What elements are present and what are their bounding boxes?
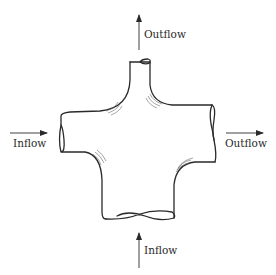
corner-hatching <box>93 94 193 172</box>
junction-outline <box>60 59 216 220</box>
bottom-inflow-label: Inflow <box>144 245 177 256</box>
flow-junction-diagram: Outflow Inflow Outflow Inflow <box>0 0 276 275</box>
left-inflow-label: Inflow <box>13 138 46 149</box>
right-outflow-label: Outflow <box>225 138 267 149</box>
top-outflow-label: Outflow <box>144 29 186 40</box>
